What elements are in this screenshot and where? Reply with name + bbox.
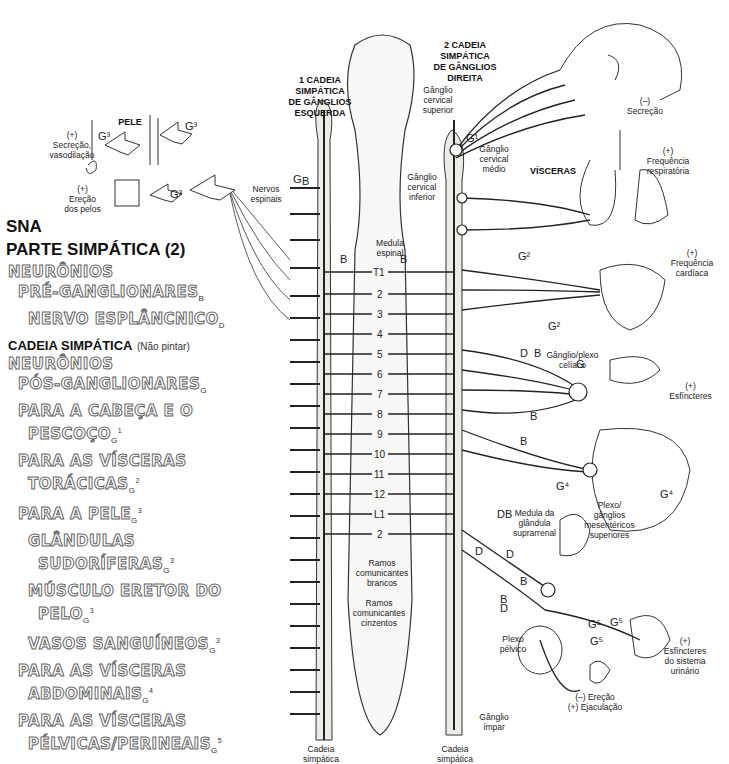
svg-text:B: B	[520, 435, 527, 447]
legend-item: VASOS SANGUÍNEOSG3	[8, 631, 222, 661]
svg-text:G: G	[293, 173, 302, 185]
svg-text:G³: G³	[170, 188, 183, 200]
svg-text:2: 2	[377, 289, 383, 300]
svg-text:G⁴: G⁴	[556, 480, 570, 492]
effect-gut: (+)Esfíncteres	[663, 381, 718, 401]
legend-item: PÓS-GANGLIONARESG	[8, 374, 222, 401]
label-ganglio-cervical-medio: Gângliocervicalmédio	[474, 144, 514, 174]
svg-text:G⁴: G⁴	[660, 488, 674, 500]
ganglio-cervical-superior	[450, 144, 462, 156]
legend-preganglionic: NEURÔNIOS PRÉ-GANGLIONARESB NERVO ESPLÂN…	[8, 262, 225, 336]
legend-title-sna: SNA	[6, 217, 42, 237]
legend-chain-heading: CADEIA SIMPÁTICA (Não pintar)	[8, 336, 190, 354]
svg-text:10: 10	[374, 449, 386, 460]
svg-text:G¹: G¹	[466, 132, 479, 144]
label-ganglio-plexo-celiaco: Gânglio/plexocelíaco	[540, 350, 605, 370]
svg-text:12: 12	[374, 489, 386, 500]
legend-item: MÚSCULO ERETOR DO	[8, 581, 222, 601]
svg-text:L1: L1	[374, 509, 386, 520]
svg-text:G²: G²	[548, 320, 561, 332]
skin-effect-piloerection: (+) Ereção dos pelos	[55, 184, 110, 214]
svg-text:B: B	[340, 253, 347, 265]
svg-text:G⁵: G⁵	[590, 635, 603, 647]
right-chain-bottom-label: Cadeiasimpática	[430, 744, 480, 764]
lungs-drawing	[580, 130, 668, 225]
legend-item: TORÁCICASG2	[8, 471, 222, 501]
legend-item: PESCOÇOG1	[8, 421, 222, 451]
vessel-drawing	[150, 115, 158, 165]
svg-text:G⁵: G⁵	[588, 618, 601, 630]
legend-item: PARA AS VÍSCERAS	[8, 661, 222, 681]
left-chain-title: 1 CADEIASIMPÁTICA DE GÂNGLIOSESQUERDA	[280, 75, 360, 119]
label-visceras: VÍSCERAS	[528, 166, 578, 177]
svg-text:4: 4	[377, 329, 383, 340]
legend-postganglionic-items: PARA A CABEÇA E OPESCOÇOG1PARA AS VÍSCER…	[8, 401, 222, 761]
legend-item: NEURÔNIOS	[8, 262, 225, 282]
label-ganglio-cervical-inferior: Gângliocervicalinferior	[402, 172, 442, 202]
ganglio-mesenterico-inferior	[541, 583, 555, 597]
skin-title: PELE	[110, 117, 150, 128]
label-plexo-pelvico: Plexopélvico	[493, 634, 533, 654]
svg-text:D: D	[475, 545, 483, 557]
left-spinal-nerves	[290, 188, 320, 714]
skin-block-drawing	[115, 180, 139, 206]
skin-effect-secretion: (+) Secreção, vasodilação	[42, 130, 102, 160]
head-drawing	[560, 23, 682, 100]
svg-text:G⁵: G⁵	[610, 616, 623, 628]
ganglio-celiaco	[569, 383, 587, 401]
legend-item: PARA A PELEG3	[8, 501, 222, 531]
right-chain-title: 2 CADEIASIMPÁTICA DE GÂNGLIOSDIREITA	[425, 40, 505, 84]
label-ramos-brancos: Ramoscomunicantesbrancos	[352, 558, 412, 588]
label-ganglio-impar: Gânglioímpar	[474, 712, 514, 732]
svg-text:D: D	[506, 548, 514, 560]
effect-head: (–)Secreção	[620, 96, 670, 116]
svg-text:B: B	[302, 175, 309, 187]
legend-item: PRÉ-GANGLIONARESB	[8, 282, 225, 309]
legend-postganglionic: NEURÔNIOS PÓS-GANGLIONARESG PARA A CABEÇ…	[8, 354, 222, 761]
svg-text:8: 8	[377, 409, 383, 420]
effect-lungs: (+)Frequênciarespiratória	[638, 146, 698, 176]
svg-text:5: 5	[377, 349, 383, 360]
legend-item: NERVO ESPLÂNCNICOD	[8, 309, 225, 336]
label-plexo-mesentericos: Plexo/gângliosmesentéricossuperiores	[582, 500, 637, 540]
legend-item: SUDORÍFERASG3	[8, 551, 222, 581]
svg-text:G³: G³	[185, 120, 198, 132]
legend-item: PARA A CABEÇA E O	[8, 401, 222, 421]
nerves-to-skin	[230, 188, 290, 320]
label-medula-suprarrenal: Medula daglândulasuprarrenal	[512, 508, 557, 538]
svg-text:D: D	[497, 508, 505, 520]
effect-heart: (+)Frequênciacardíaca	[662, 248, 722, 278]
ganglio-cervical-medio	[457, 193, 467, 203]
effect-bladder: (+)Esfíncteresdo sistemaurinário	[655, 636, 715, 676]
svg-text:G²: G²	[518, 250, 531, 262]
svg-text:9: 9	[377, 429, 383, 440]
label-ramos-cinzentos: Ramoscomunicantescinzentos	[348, 598, 410, 628]
ganglio-cervical-inferior	[457, 225, 467, 235]
ganglio-mesenterico	[583, 463, 597, 477]
svg-text:7: 7	[377, 389, 383, 400]
genital-drawing	[590, 661, 610, 683]
svg-text:B: B	[530, 410, 537, 422]
legend-item: PELOG3	[8, 601, 222, 631]
svg-text:B: B	[520, 575, 527, 587]
legend-item: PARA AS VÍSCERAS	[8, 711, 222, 731]
svg-text:D: D	[500, 602, 508, 614]
left-chain-bottom-label: Cadeiasimpática	[296, 744, 346, 764]
svg-text:2: 2	[377, 529, 383, 540]
heart-drawing	[600, 264, 665, 330]
legend-title-part: PARTE SIMPÁTICA (2)	[6, 240, 185, 260]
legend-item: NEURÔNIOS	[8, 354, 222, 374]
label-medula-espinal: Medulaespinal	[370, 238, 410, 258]
label-nervos-espinais: Nervosespinais	[246, 184, 286, 204]
svg-text:6: 6	[377, 369, 383, 380]
spinal-cord	[348, 35, 415, 735]
legend-item: GLÂNDULAS	[8, 531, 222, 551]
svg-text:11: 11	[374, 469, 385, 480]
svg-text:D: D	[520, 347, 528, 359]
legend-item: ABDOMINAISG4	[8, 681, 222, 711]
stomach-drawing	[610, 357, 660, 384]
effect-genital: (–) Ereção(+) Ejaculação	[560, 692, 630, 712]
legend-item: PARA AS VÍSCERAS	[8, 451, 222, 471]
label-ganglio-cervical-superior: Gângliocervicalsuperior	[418, 85, 458, 115]
svg-text:3: 3	[377, 309, 383, 320]
